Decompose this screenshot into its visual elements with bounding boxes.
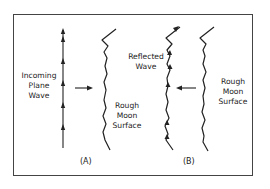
panel-a-label: (A) xyxy=(80,157,92,166)
rough-surface-b-icon xyxy=(200,27,214,151)
label-line: Surface xyxy=(109,121,145,131)
label-line: Wave xyxy=(124,62,168,72)
label-line: Plane xyxy=(19,81,59,91)
incoming-plane-wave-icon xyxy=(61,28,65,148)
label-line: Reflected xyxy=(124,52,168,62)
label-line: Rough xyxy=(215,77,251,87)
incoming-plane-wave-label: Incoming Plane Wave xyxy=(19,71,59,101)
label-line: Rough xyxy=(109,101,145,111)
label-line: Surface xyxy=(215,97,251,107)
arrow-left-icon xyxy=(176,86,196,91)
arrow-right-icon xyxy=(75,86,93,91)
label-line: Incoming xyxy=(19,71,59,81)
rough-surface-a-icon xyxy=(102,29,116,150)
rough-moon-surface-label-b: Rough Moon Surface xyxy=(215,77,251,107)
rough-moon-surface-label-a: Rough Moon Surface xyxy=(109,101,145,131)
label-line: Moon xyxy=(109,111,145,121)
reflected-wave-label: Reflected Wave xyxy=(124,52,168,72)
label-line: Wave xyxy=(19,91,59,101)
panel-b-label: (B) xyxy=(183,157,195,166)
label-line: Moon xyxy=(215,87,251,97)
